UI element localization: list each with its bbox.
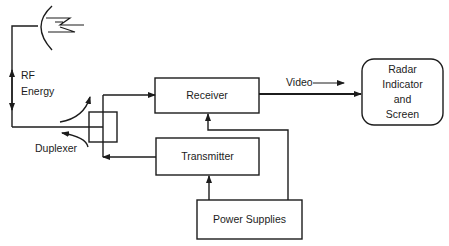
radar-indicator-label: Radar Indicator and Screen xyxy=(362,59,443,125)
radar-block-diagram: RF Energy Duplexer Video Receiver Transm… xyxy=(0,0,449,246)
video-label: Video xyxy=(286,77,313,88)
energy-label: Energy xyxy=(21,86,54,97)
indicator-line-4: Screen xyxy=(386,107,419,122)
rf-label: RF xyxy=(21,70,35,81)
power-supplies-label: Power Supplies xyxy=(197,200,302,239)
receiver-label: Receiver xyxy=(155,78,259,113)
transmitter-label: Transmitter xyxy=(156,138,259,175)
duplexer-label: Duplexer xyxy=(35,143,77,154)
indicator-line-1: Radar xyxy=(388,62,417,77)
indicator-line-3: and xyxy=(394,92,412,107)
rf-wave-icon xyxy=(46,18,84,32)
antenna-dish-icon xyxy=(41,6,52,50)
indicator-line-2: Indicator xyxy=(382,77,422,92)
